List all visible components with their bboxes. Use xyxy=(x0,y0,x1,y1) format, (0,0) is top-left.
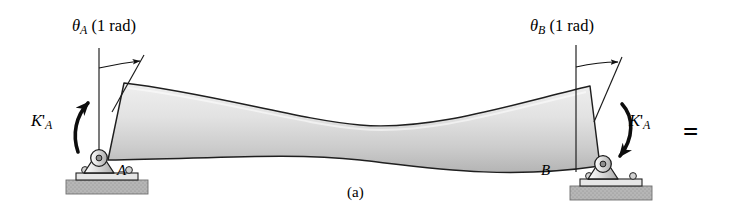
moment-right-label: K'A xyxy=(629,113,650,132)
support-b-label: B xyxy=(541,163,550,178)
moment-left-label: K'A xyxy=(31,113,52,132)
equals-sign: = xyxy=(683,119,698,146)
bolt-a-right xyxy=(126,167,133,174)
moment-left-subscript: A xyxy=(45,118,52,132)
ground-block-a-icon xyxy=(66,180,148,194)
theta-b-value: (1 rad) xyxy=(550,16,594,35)
theta-b-symbol: θ xyxy=(530,16,538,35)
figure-caption: (a) xyxy=(347,185,364,200)
ground-block-b-icon xyxy=(570,186,652,200)
base-plate-b xyxy=(580,179,642,186)
support-a-label: A xyxy=(117,163,126,178)
base-plate-a xyxy=(76,173,138,180)
theta-a-symbol: θ xyxy=(72,16,80,35)
pin-hole-b xyxy=(600,161,606,167)
moment-left-symbol: K xyxy=(31,111,42,130)
theta-b-subscript: B xyxy=(538,23,545,37)
pin-hole-a xyxy=(96,155,102,161)
theta-a-value: (1 rad) xyxy=(92,16,136,35)
theta-b-label: θB (1 rad) xyxy=(530,18,594,37)
moment-right-subscript: A xyxy=(643,118,650,132)
moment-right-symbol: K xyxy=(629,111,640,130)
bolt-b-right xyxy=(630,173,637,180)
theta-a-label: θA (1 rad) xyxy=(72,18,136,37)
theta-a-subscript: A xyxy=(80,23,87,37)
